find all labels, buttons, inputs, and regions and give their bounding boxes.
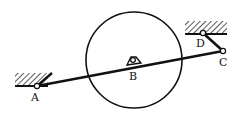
joint-d: [200, 30, 205, 35]
joint-a: [34, 83, 39, 88]
label-b: B: [129, 70, 137, 83]
joint-c: [220, 48, 225, 53]
label-d: D: [196, 37, 205, 50]
ground-hatch-a: [15, 73, 48, 85]
joint-b: [131, 58, 136, 63]
mechanism-diagram: A B C D: [0, 0, 239, 118]
link-dc: [203, 33, 223, 51]
label-a: A: [30, 91, 40, 104]
ground-hatch-d: [185, 21, 227, 33]
label-c: C: [219, 56, 227, 69]
